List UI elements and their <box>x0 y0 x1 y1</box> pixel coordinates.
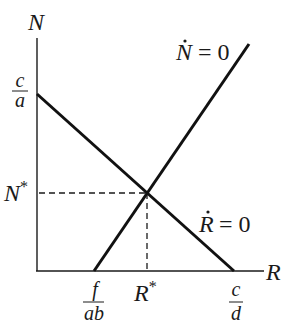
r-star-base: R <box>133 280 149 306</box>
n-dot-var: N <box>175 39 194 65</box>
fraction-numerator: c <box>16 69 25 91</box>
n-dot-rhs: = 0 <box>198 39 230 65</box>
fraction-denominator: a <box>15 89 25 111</box>
y-axis-label: N <box>27 9 46 35</box>
n-star-sup: * <box>20 178 28 195</box>
x-tick-c-over-d: c d <box>229 278 243 324</box>
y-tick-n-star: N* <box>3 178 28 206</box>
x-tick-r-star: R* <box>133 278 157 306</box>
r-star-sup: * <box>149 278 157 295</box>
dot-accent-icon <box>206 210 209 213</box>
fraction-numerator: f <box>92 278 100 301</box>
x-axis-label: R <box>265 259 281 285</box>
x-tick-f-over-ab: f ab <box>83 278 104 324</box>
n-star-label: N* <box>3 178 28 206</box>
fraction-numerator: c <box>232 278 241 300</box>
n-dot-isocline-label: N = 0 <box>175 39 230 65</box>
y-tick-c-over-a: c a <box>12 69 28 111</box>
fraction-denominator: ab <box>84 302 104 324</box>
dot-accent-icon <box>183 39 186 42</box>
r-dot-isocline-label: R = 0 <box>198 210 251 237</box>
r-dot-isocline <box>37 94 234 271</box>
r-dot-var: R <box>198 211 214 237</box>
r-star-label: R* <box>133 278 157 306</box>
fraction-denominator: d <box>231 302 242 324</box>
isocline-diagram: N R N = 0 R = 0 c a N* f ab R* c d <box>0 0 286 329</box>
r-dot-rhs: = 0 <box>219 211 251 237</box>
